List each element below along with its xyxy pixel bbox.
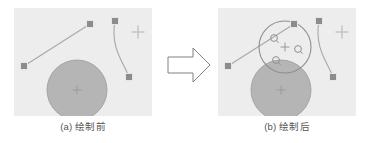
- handle-line-start[interactable]: [225, 63, 232, 70]
- handle-line-start[interactable]: [21, 63, 28, 70]
- caption-panel-b: (b) 绘制后: [218, 120, 356, 134]
- handle-line-end[interactable]: [87, 21, 94, 28]
- crosshair-corner-marker: [132, 26, 145, 39]
- handle-curve-end[interactable]: [126, 74, 133, 81]
- node-marker-right[interactable]: [295, 46, 303, 54]
- crosshair-outline-center: [281, 43, 290, 52]
- panel-a-canvas: [14, 8, 152, 116]
- panel-b-graphics: [218, 8, 356, 116]
- panel-a: [14, 8, 152, 116]
- crosshair-corner-marker: [336, 26, 349, 39]
- bezier-curve: [318, 21, 333, 77]
- straight-line-segment: [24, 24, 90, 66]
- straight-line-segment: [228, 24, 294, 66]
- caption-panel-a: (a) 绘制前: [14, 120, 152, 134]
- handle-curve-start[interactable]: [316, 18, 323, 25]
- panel-b-canvas: [218, 8, 356, 116]
- handle-curve-end[interactable]: [330, 74, 337, 81]
- panel-a-graphics: [14, 8, 152, 116]
- transition-arrow-icon: [166, 42, 212, 88]
- panel-b: [218, 8, 356, 116]
- handle-curve-start[interactable]: [112, 18, 119, 25]
- transition-arrow: [166, 42, 212, 88]
- handle-line-end[interactable]: [291, 21, 298, 28]
- figure-container: (a) 绘制前: [0, 0, 384, 143]
- bezier-curve: [114, 21, 129, 77]
